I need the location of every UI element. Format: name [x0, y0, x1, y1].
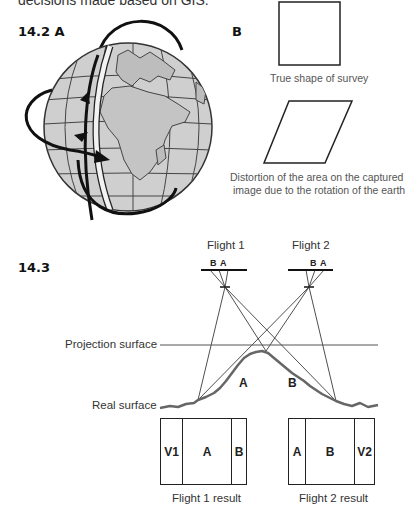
result-cell-b: B — [232, 419, 246, 484]
result-cell-v1: V1 — [161, 419, 183, 484]
result-cell-a: A — [183, 419, 232, 484]
projection-surface-label: Projection surface — [65, 338, 157, 350]
flight-1-result-box: V1 A B — [160, 418, 247, 485]
result-cell-a: A — [289, 419, 306, 484]
flight-1-result-caption: Flight 1 result — [172, 492, 241, 504]
result-cell-b: B — [306, 419, 355, 484]
flight-2-result-box: A B V2 — [288, 418, 375, 485]
flight-2-result-caption: Flight 2 result — [299, 492, 368, 504]
real-surface-label: Real surface — [92, 399, 157, 411]
slope-label-b: B — [288, 376, 297, 390]
result-cell-v2: V2 — [355, 419, 374, 484]
slope-label-a: A — [239, 376, 248, 390]
